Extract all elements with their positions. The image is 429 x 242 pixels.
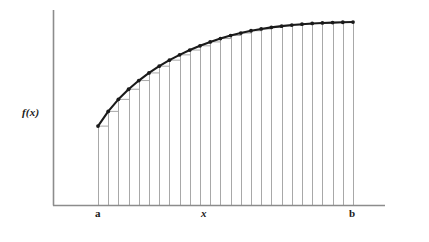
curve-sample-marker bbox=[106, 110, 110, 114]
curve-sample-marker bbox=[270, 25, 274, 29]
y-axis-label: f(x) bbox=[22, 106, 39, 118]
curve-sample-marker bbox=[310, 22, 314, 26]
curve-sample-marker bbox=[198, 44, 202, 48]
curve-sample-marker bbox=[178, 53, 182, 57]
x-axis-label: x bbox=[201, 207, 207, 219]
curve-sample-marker bbox=[351, 20, 355, 24]
curve-sample-marker bbox=[229, 34, 233, 38]
curve-sample-marker bbox=[341, 20, 345, 24]
curve-sample-marker bbox=[137, 79, 141, 83]
curve-sample-marker bbox=[321, 21, 325, 25]
curve-sample-marker bbox=[147, 71, 151, 75]
lower-limit-label: a bbox=[95, 207, 101, 219]
function-curve bbox=[98, 22, 353, 126]
curve-sample-marker bbox=[188, 48, 192, 52]
curve-sample-marker bbox=[249, 29, 253, 33]
curve-sample-marker bbox=[331, 21, 335, 25]
curve-sample-marker bbox=[157, 64, 161, 68]
curve-sample-marker bbox=[117, 97, 121, 101]
curve-sample-marker bbox=[96, 124, 100, 128]
curve-sample-marker bbox=[259, 27, 263, 31]
curve-sample-marker bbox=[239, 31, 243, 35]
plot-canvas bbox=[0, 0, 429, 242]
curve-sample-marker bbox=[290, 23, 294, 27]
curve-sample-marker bbox=[127, 87, 131, 91]
curve-sample-marker bbox=[280, 24, 284, 28]
riemann-sum-figure: f(x) x a b bbox=[0, 0, 429, 242]
curve-sample-marker bbox=[300, 22, 304, 26]
curve-sample-marker bbox=[219, 37, 223, 41]
upper-limit-label: b bbox=[349, 207, 355, 219]
curve-sample-marker bbox=[208, 40, 212, 44]
partition-lines-group bbox=[99, 22, 354, 205]
curve-sample-marker bbox=[168, 58, 172, 62]
